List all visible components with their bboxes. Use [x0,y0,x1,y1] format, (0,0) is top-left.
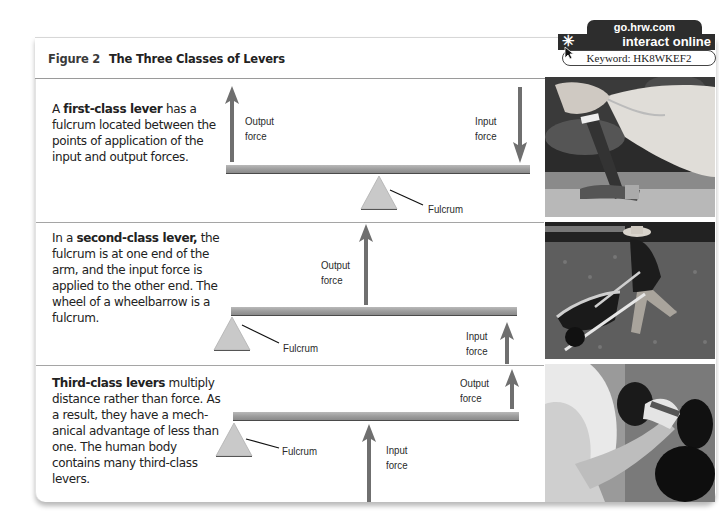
input-force-label: Inputforce [475,114,497,144]
output-force-arrow-up-icon [505,369,519,409]
mouse-cursor-icon [564,46,574,60]
figure-number: Figure 2 [48,52,100,66]
fulcrum-leader-line [241,323,281,347]
term-third-class-levers: Third-class levers [52,376,165,390]
badge-keyword[interactable]: Keyword: HK8WKEF2 [562,50,716,66]
output-force-arrow-up-icon [225,86,239,162]
term-second-class-lever: second-class lever, [76,231,197,245]
fulcrum-label: Fulcrum [282,444,317,459]
row-divider [36,222,544,223]
badge-tagline[interactable]: ✳ interact online [558,34,715,50]
lever-beam [231,307,517,316]
photo-man-pushing-wheelbarrow [545,222,715,359]
first-class-description: A first-class lever has a fulcrum locate… [52,101,227,165]
second-class-description: In a second-class lever, the fulcrum is … [52,230,227,326]
output-force-label: Outputforce [460,376,489,406]
input-force-arrow-up-icon [362,424,376,502]
fulcrum-label: Fulcrum [283,341,318,356]
output-force-label: Outputforce [321,258,350,288]
fulcrum-leader-line [389,188,425,208]
badge-site[interactable]: go.hrw.com [587,20,702,34]
third-class-description: Third-class levers multiply distance rat… [52,375,227,487]
input-force-arrow-down-icon [513,87,527,163]
photo-hammer-pulling-nail [545,77,715,217]
lever-beam [233,412,519,421]
term-first-class-lever: first-class lever [63,102,162,116]
output-force-arrow-up-icon [359,224,373,305]
photo-arm-lifting-dumbbell [545,364,715,502]
fulcrum-label: Fulcrum [428,202,463,217]
figure-title-text: The Three Classes of Levers [109,52,285,66]
output-force-label: Outputforce [245,114,274,144]
input-force-arrow-up-icon [500,322,514,364]
lever-beam [226,165,530,174]
row-divider [36,365,544,366]
badge-tagline-text: interact online [622,34,711,49]
input-force-label: Inputforce [466,329,488,359]
input-force-label: Inputforce [386,443,408,473]
fulcrum-leader-line [245,437,281,451]
figure-title: Figure 2 The Three Classes of Levers [48,52,285,66]
